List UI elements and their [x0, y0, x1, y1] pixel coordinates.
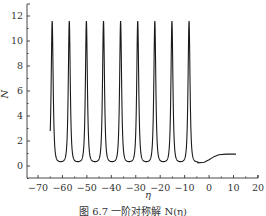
x-tick-label: 0 [206, 182, 212, 193]
x-tick-label: −30 [126, 182, 146, 193]
x-tick-label: −60 [52, 182, 72, 193]
line-chart: −70−60−50−40−30−20−1001020024681012 η N [0, 0, 266, 216]
x-tick-label: 10 [227, 182, 239, 193]
figure-caption: 图 6.7 一阶对称解 N(η) [0, 203, 266, 216]
y-axis-label: N [0, 88, 10, 99]
y-tick-label: 2 [17, 135, 23, 146]
y-tick-label: 4 [17, 110, 23, 121]
y-tick-label: 8 [17, 60, 23, 71]
x-tick-label: −70 [28, 182, 48, 193]
x-tick-label: −50 [77, 182, 97, 193]
y-tick-label: 0 [17, 160, 23, 171]
x-axis-label: η [145, 189, 151, 200]
x-tick-label: 20 [252, 182, 264, 193]
data-curve [50, 21, 236, 163]
y-tick-label: 12 [11, 10, 23, 21]
x-tick-label: −20 [150, 182, 170, 193]
y-tick-label: 10 [11, 35, 23, 46]
x-tick-label: −10 [175, 182, 195, 193]
axes [27, 4, 258, 178]
y-tick-label: 6 [17, 85, 23, 96]
x-tick-label: −40 [101, 182, 121, 193]
